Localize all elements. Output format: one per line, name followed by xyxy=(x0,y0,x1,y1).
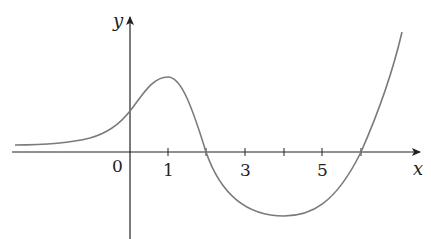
tick-label-1: 1 xyxy=(163,160,174,180)
x-axis-label: x xyxy=(413,158,423,179)
tick-label-5: 5 xyxy=(317,160,328,180)
origin-label: 0 xyxy=(112,156,123,176)
chart-figure: y x 0 1 3 5 xyxy=(0,0,431,239)
tick-label-3: 3 xyxy=(240,160,251,180)
function-curve xyxy=(15,32,402,216)
y-axis-label: y xyxy=(112,10,124,31)
chart-svg: y x 0 1 3 5 xyxy=(0,0,431,239)
